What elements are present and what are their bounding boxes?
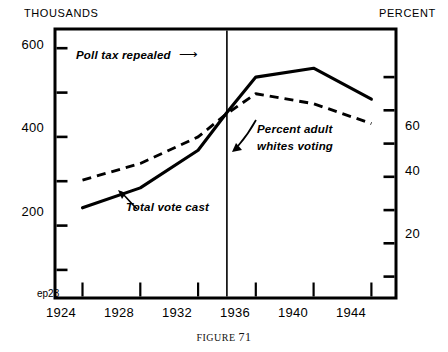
left-axis-ticks — [57, 48, 68, 270]
x-tick-label-1936: 1936 — [207, 305, 263, 320]
x-tick-label-1924: 1924 — [33, 305, 89, 320]
y-tick-label-200: 200 — [4, 204, 44, 219]
y-tick-label-600: 600 — [4, 37, 44, 52]
figure-caption: FIGURE 71 — [0, 330, 448, 345]
plot-frame — [55, 29, 396, 298]
y-tick-label-400: 400 — [4, 120, 44, 135]
figure-caption-prefix: FIGURE — [196, 332, 235, 343]
x-tick-label-1932: 1932 — [149, 305, 205, 320]
y2-tick-label-20: 20 — [405, 226, 445, 241]
annotation-percent-adult-whites-line2: whites voting — [257, 140, 333, 152]
annotation-percent-adult-whites-line1: Percent adult — [257, 123, 332, 135]
y2-tick-label-40: 40 — [405, 163, 445, 178]
annotation-total-vote-cast: Total vote cast — [126, 201, 209, 213]
chart-canvas — [0, 0, 448, 352]
annotation-poll-tax-repealed: Poll tax repealed ⟶ — [76, 47, 198, 62]
figure-caption-number: 71 — [239, 330, 252, 344]
x-tick-label-1940: 1940 — [265, 305, 321, 320]
figure-71: THOUSANDS PERCENT 600 400 200 60 40 20 1… — [0, 0, 448, 352]
right-arrow-icon: ⟶ — [174, 47, 198, 62]
arrowhead-percent-adult-whites — [232, 143, 242, 152]
right-axis-ticks — [384, 77, 395, 277]
x-tick-label-1944: 1944 — [323, 305, 379, 320]
y2-tick-label-60: 60 — [405, 118, 445, 133]
x-tick-label-1928: 1928 — [91, 305, 147, 320]
annotation-poll-tax-repealed-text: Poll tax repealed — [76, 49, 171, 61]
corner-tag: ep23 — [37, 288, 59, 299]
